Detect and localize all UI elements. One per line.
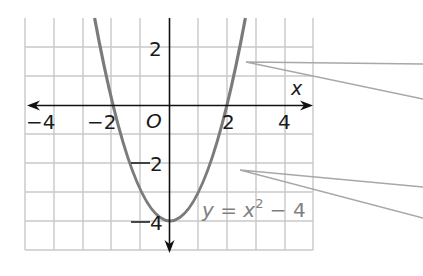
y-tick-neg2-number: 2 bbox=[150, 152, 163, 176]
callout-pointer-upper bbox=[246, 62, 423, 99]
x-tick-neg4: −4 bbox=[26, 110, 55, 134]
x-axis-label: x bbox=[290, 77, 303, 99]
y-tick-neg4-number: 4 bbox=[150, 211, 163, 235]
origin-label: O bbox=[146, 109, 162, 133]
callout-pointers bbox=[240, 62, 423, 218]
equation-label: y = x2 − 4 bbox=[201, 196, 306, 222]
graph-figure: x O −4 −2 2 4 2 2 4 y = x2 − 4 bbox=[0, 0, 423, 276]
x-tick-2: 2 bbox=[222, 110, 235, 134]
x-tick-4: 4 bbox=[278, 110, 291, 134]
y-tick-2: 2 bbox=[149, 37, 162, 61]
x-tick-neg2: −2 bbox=[87, 110, 116, 134]
